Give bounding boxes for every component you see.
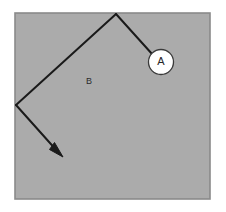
region-label-b: B (86, 76, 92, 86)
diagram-canvas: A B (0, 0, 226, 212)
vector-diagram: A B (0, 0, 226, 212)
gray-square-panel (15, 13, 210, 199)
node-a-label: A (157, 55, 165, 67)
